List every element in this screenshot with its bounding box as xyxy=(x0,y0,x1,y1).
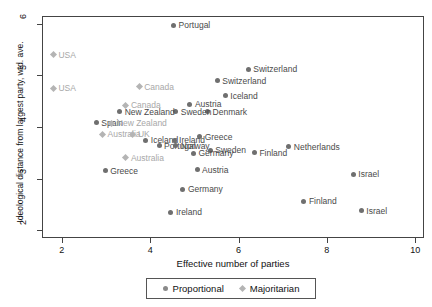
scatter-chart: 23456246810 PortugalSwitzerlandSwitzerla… xyxy=(0,0,432,307)
circle-marker-icon xyxy=(215,78,220,83)
legend-label-proportional: Proportional xyxy=(173,283,224,294)
data-point-label: Canada xyxy=(144,82,174,92)
data-point-label: Austria xyxy=(202,165,228,175)
circle-marker-icon xyxy=(157,143,162,148)
x-axis-tick xyxy=(415,238,416,243)
circle-marker-icon xyxy=(246,67,251,72)
data-point-label: UK xyxy=(138,129,150,139)
data-point-label: Iceland xyxy=(230,91,257,101)
data-point-label: Finland xyxy=(309,196,337,206)
data-point-label: Germany xyxy=(198,148,233,158)
x-axis-tick xyxy=(150,238,151,243)
diamond-marker-icon xyxy=(239,285,246,292)
x-axis-tick-label: 4 xyxy=(138,245,162,255)
y-axis-tick xyxy=(37,179,42,180)
x-axis-tick xyxy=(62,238,63,243)
data-point-label: Denmark xyxy=(213,107,247,117)
x-axis-tick xyxy=(239,238,240,243)
data-point-label: Greece xyxy=(110,166,138,176)
data-point-label: Finland xyxy=(259,148,287,158)
x-axis-tick-label: 6 xyxy=(227,245,251,255)
legend-item-majoritarian[interactable]: Majoritarian xyxy=(240,283,300,294)
y-axis-tick xyxy=(37,75,42,76)
data-point-label: Switzerland xyxy=(253,64,297,74)
data-point-label: Germany xyxy=(188,184,223,194)
data-point-label: New Zealand xyxy=(117,118,167,128)
circle-marker-icon xyxy=(191,151,196,156)
data-point-label: Israel xyxy=(358,169,379,179)
x-axis-tick-label: 2 xyxy=(50,245,74,255)
chart-legend: Proportional Majoritarian xyxy=(146,278,316,299)
data-point-label: Portugal xyxy=(179,20,211,30)
y-axis-title: Ideological distance from largest party,… xyxy=(15,12,25,252)
x-axis-tick-label: 8 xyxy=(315,245,339,255)
data-point-label: Australia xyxy=(131,153,164,163)
circle-marker-icon xyxy=(163,286,168,291)
legend-item-proportional[interactable]: Proportional xyxy=(163,283,224,294)
circle-marker-icon xyxy=(195,167,200,172)
data-point-label: Switzerland xyxy=(222,76,266,86)
circle-marker-icon xyxy=(223,93,228,98)
x-axis-title: Effective number of parties xyxy=(42,258,424,269)
circle-marker-icon xyxy=(359,208,364,213)
legend-label-majoritarian: Majoritarian xyxy=(250,283,300,294)
y-axis-tick xyxy=(37,24,42,25)
data-point-label: Canada xyxy=(131,100,161,110)
data-point-label: USA xyxy=(58,83,75,93)
data-point-label: Netherlands xyxy=(294,142,340,152)
circle-marker-icon xyxy=(171,23,176,28)
x-axis-tick xyxy=(327,238,328,243)
y-axis-tick xyxy=(37,127,42,128)
data-point-label: Sweden xyxy=(181,107,212,117)
y-axis-tick xyxy=(37,230,42,231)
data-point-label: Ireland xyxy=(176,207,202,217)
x-axis-tick-label: 10 xyxy=(403,245,427,255)
data-point-label: USA xyxy=(58,50,75,60)
circle-marker-icon xyxy=(351,172,356,177)
data-point-label: Israel xyxy=(366,206,387,216)
